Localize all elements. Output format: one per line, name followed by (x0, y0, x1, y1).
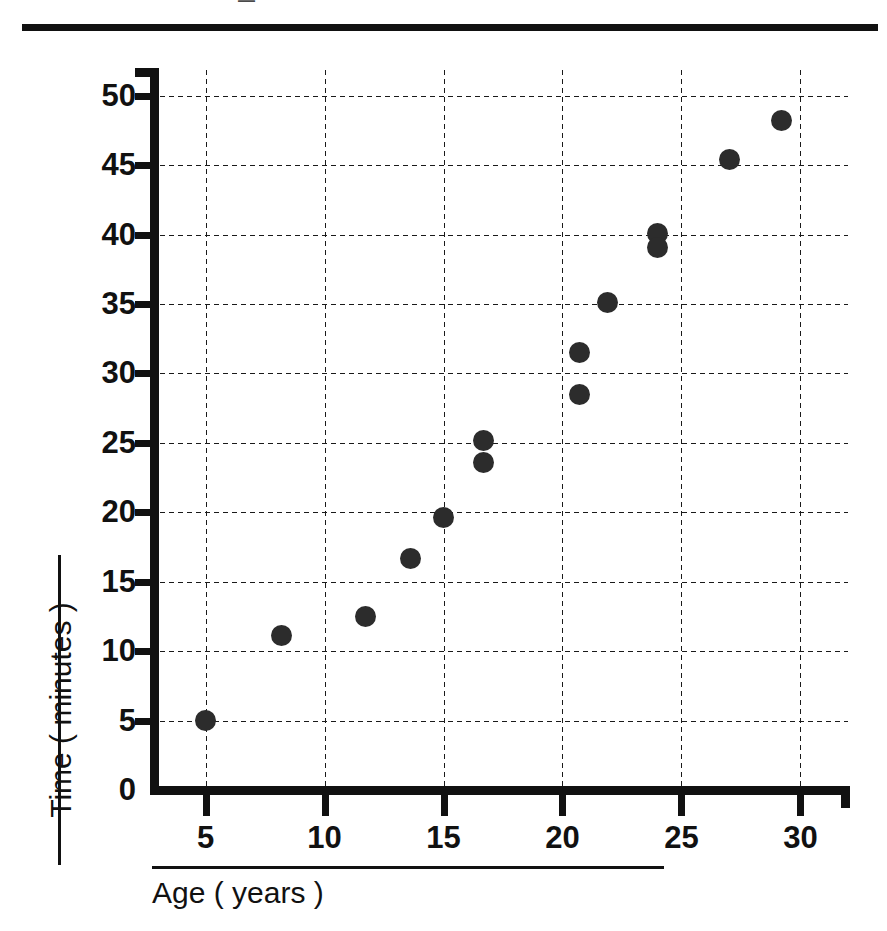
plot-area (158, 68, 848, 790)
y-axis-tick-label: 40 (66, 219, 136, 250)
data-point (355, 606, 376, 627)
gridline-horizontal (158, 234, 848, 237)
y-axis-tick-label: 25 (66, 427, 136, 458)
x-axis-title-rule (152, 866, 664, 869)
gridline-horizontal (158, 581, 848, 584)
y-axis-tick (135, 370, 159, 377)
x-axis-tick-label: 10 (285, 822, 365, 853)
data-point (597, 292, 618, 313)
gridline-vertical (799, 68, 802, 790)
gridline-horizontal (158, 720, 848, 723)
data-point (195, 710, 216, 731)
data-point (473, 452, 494, 473)
x-axis-tick-label: 30 (760, 822, 840, 853)
x-axis-tick (203, 795, 210, 816)
top-horizontal-rule (22, 24, 878, 31)
gridline-horizontal (158, 650, 848, 653)
gridline-horizontal (158, 95, 848, 98)
x-axis-tick-label: 20 (522, 822, 602, 853)
x-axis-tick (678, 795, 685, 816)
data-point (271, 625, 292, 646)
y-axis-top-cap (135, 68, 159, 77)
gridline-vertical (680, 68, 683, 790)
data-point (400, 548, 421, 569)
clipped-header-artifact: — (0, 0, 887, 9)
data-point (569, 384, 590, 405)
gridline-vertical (324, 68, 327, 790)
y-axis-tick (135, 718, 159, 725)
x-axis-tick (441, 795, 448, 816)
gridline-horizontal (158, 511, 848, 514)
y-axis-tick-label: 30 (66, 357, 136, 388)
y-axis-title-group: Time ( minutes ) (8, 555, 68, 885)
y-axis-tick (135, 509, 159, 516)
gridline-vertical (561, 68, 564, 790)
gridline-vertical (205, 68, 208, 790)
gridline-vertical (443, 68, 446, 790)
data-point (473, 430, 494, 451)
x-axis-tick-label: 5 (166, 822, 246, 853)
x-axis-tick-label: 15 (404, 822, 484, 853)
y-axis-tick-label: 45 (66, 149, 136, 180)
y-axis-tick (135, 579, 159, 586)
data-point (433, 507, 454, 528)
y-axis-tick-label: 50 (66, 80, 136, 111)
y-axis-tick (135, 301, 159, 308)
gridline-horizontal (158, 372, 848, 375)
y-axis-tick-label: 35 (66, 288, 136, 319)
data-point (647, 237, 668, 258)
y-axis-tick (135, 648, 159, 655)
gridline-horizontal (158, 164, 848, 167)
y-axis-tick (135, 162, 159, 169)
x-axis-tick (322, 795, 329, 816)
x-axis-tick (797, 795, 804, 816)
y-axis-tick-label: 20 (66, 496, 136, 527)
y-axis-tick-label: 15 (66, 566, 136, 597)
data-point (719, 149, 740, 170)
x-axis-tick-label: 25 (641, 822, 721, 853)
x-axis-title: Age ( years ) (152, 878, 324, 908)
data-point (771, 110, 792, 131)
y-axis-tick (135, 440, 159, 447)
x-axis-tick (559, 795, 566, 816)
gridline-horizontal (158, 442, 848, 445)
data-point (569, 342, 590, 363)
y-axis-tick (135, 93, 159, 100)
y-axis-title: Time ( minutes ) (46, 550, 76, 870)
y-axis-tick (135, 232, 159, 239)
gridline-horizontal (158, 303, 848, 306)
scatter-plot-figure: — 0510152025303540455051015202530 Time (… (0, 0, 887, 931)
